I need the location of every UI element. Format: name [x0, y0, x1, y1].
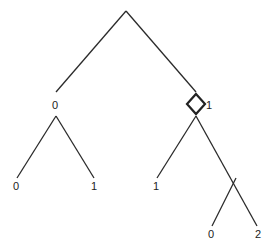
leaf-label: 0	[13, 181, 19, 192]
edge-inner-left	[212, 178, 236, 226]
edge-root-left	[56, 11, 126, 92]
edge-left-left	[17, 116, 56, 178]
edge-right-left	[157, 116, 196, 178]
tree-diagram	[0, 0, 274, 252]
leaf-label: 1	[153, 181, 159, 192]
edge-root-right	[126, 11, 196, 92]
node-label-right: 1	[206, 100, 212, 111]
leaf-label: 0	[208, 229, 214, 240]
edge-left-right	[56, 116, 94, 178]
edge-right-right	[196, 116, 257, 226]
diamond-marker-icon	[187, 94, 205, 114]
leaf-label: 2	[255, 229, 261, 240]
node-label-left: 0	[52, 100, 58, 111]
leaf-label: 1	[91, 181, 97, 192]
